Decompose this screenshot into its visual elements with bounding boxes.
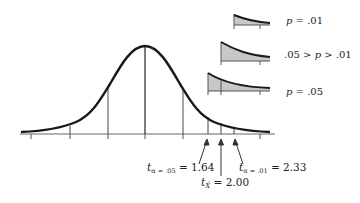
label-t-xbar: tX̄ = 2.00 bbox=[201, 176, 249, 190]
label-p-01: p = .01 bbox=[286, 15, 323, 26]
label-t-alpha-01: tα = .01 = 2.33 bbox=[239, 161, 306, 175]
label-t-alpha-05: tα = .05 = 1.64 bbox=[147, 161, 215, 175]
inset-p-05 bbox=[208, 73, 270, 95]
inset-p-between bbox=[221, 42, 270, 65]
label-p-05: p = .05 bbox=[286, 86, 323, 97]
t-distribution-diagram: p = .01 .05 > p > .01 p = .05 tα = .05 =… bbox=[0, 0, 360, 203]
inset-p-01 bbox=[234, 14, 270, 29]
axis-ticks bbox=[31, 134, 260, 139]
label-p-between: .05 > p > .01 bbox=[284, 49, 352, 60]
